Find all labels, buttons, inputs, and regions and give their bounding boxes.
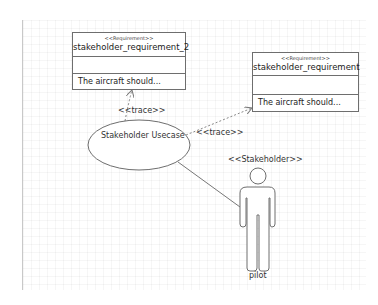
requirement-stereotype: <<Requirement>>: [73, 33, 185, 42]
association-connector[interactable]: [178, 162, 240, 207]
requirement-box-req1[interactable]: <<Requirement>> stakeholder_requirement …: [252, 52, 359, 112]
actor-stereotype: <<Stakeholder>>: [228, 155, 303, 164]
actor-name: pilot: [249, 271, 267, 280]
requirement-box-req2[interactable]: <<Requirement>> stakeholder_requirement_…: [72, 32, 186, 90]
usecase-label: Stakeholder Usecase: [101, 131, 185, 140]
requirement-attributes-compartment: [73, 57, 185, 74]
requirement-name: stakeholder_requirement_2: [73, 42, 185, 53]
requirement-attributes-compartment: [253, 76, 358, 95]
usecase-ellipse[interactable]: [88, 120, 190, 170]
trace-label-req2: <<trace>>: [118, 106, 165, 115]
requirement-text: The aircraft should...: [253, 95, 358, 111]
requirement-name: stakeholder_requirement: [253, 62, 358, 73]
actor-figure-icon[interactable]: [240, 168, 275, 271]
requirement-text: The aircraft should...: [73, 74, 185, 90]
requirement-stereotype: <<Requirement>>: [253, 53, 358, 62]
connector-layer: [0, 0, 378, 305]
requirement-header: <<Requirement>> stakeholder_requirement: [253, 53, 358, 76]
requirement-header: <<Requirement>> stakeholder_requirement_…: [73, 33, 185, 57]
trace-label-req1: <<trace>>: [196, 128, 243, 137]
